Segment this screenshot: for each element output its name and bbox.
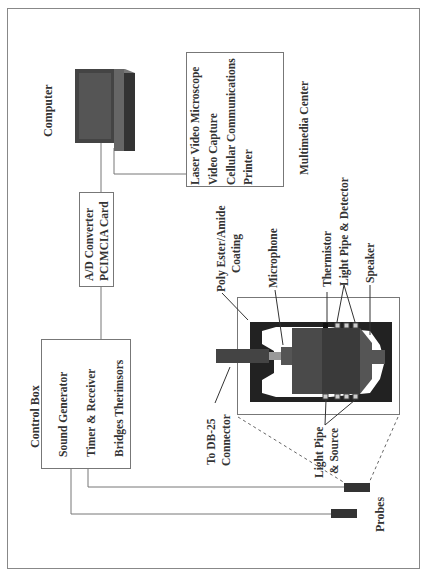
- multimedia-item: Printer: [243, 149, 255, 185]
- coating-label: Coating: [231, 234, 243, 273]
- db25-label: To DB-25: [206, 418, 218, 465]
- computer-label: Computer: [42, 84, 54, 137]
- control-box-item: Timer & Receiver: [86, 369, 98, 457]
- microphone-label: Microphone: [268, 228, 280, 288]
- light-pipe-detector-label: Light Pipe & Detector: [339, 177, 351, 286]
- control-box-item: Bridges Therimsors: [114, 360, 126, 457]
- db25-label: Connector: [221, 414, 233, 466]
- ad-converter-line: A/D Converter: [84, 208, 96, 281]
- coating-label: Poly Ester/Amide: [216, 205, 228, 292]
- control-box-item: Sound Generator: [58, 372, 70, 457]
- multimedia-item: Laser Video Microscope: [190, 67, 202, 185]
- speaker-label: Speaker: [365, 243, 377, 283]
- ad-converter-line: PCIMCIA Card: [99, 201, 111, 281]
- probes-label: Probes: [374, 497, 386, 532]
- control-box-label: Control Box: [29, 385, 41, 448]
- light-pipe-source-label: & Source: [329, 428, 341, 474]
- multimedia-item: Video Capture: [208, 113, 220, 185]
- light-pipe-source-label: Light Pipe: [314, 427, 326, 478]
- multimedia-center-label: Multimedia Center: [299, 81, 311, 175]
- multimedia-item: Cellular Communications: [226, 58, 238, 185]
- thermistor-label: Thermistor: [322, 231, 334, 287]
